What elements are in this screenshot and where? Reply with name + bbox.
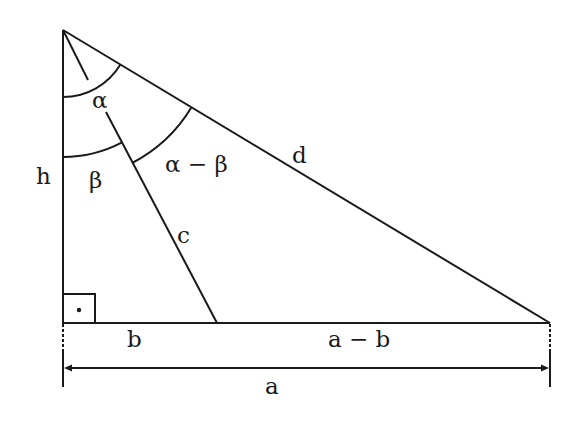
label-alpha-minus-beta: α − β <box>165 151 228 177</box>
label-beta: β <box>89 167 102 193</box>
arrowhead-right-icon <box>541 365 549 372</box>
label-a-minus-b: a − b <box>328 326 390 352</box>
right-angle-dot <box>77 308 81 312</box>
label-c: c <box>177 222 190 248</box>
label-b: b <box>127 326 142 352</box>
label-alpha: α <box>92 87 108 113</box>
label-a: a <box>265 373 279 399</box>
angle-arc-beta <box>63 143 122 157</box>
triangle-diagram: h α β α − β d c b a − b a <box>0 0 578 421</box>
side-d-hypotenuse <box>63 30 550 323</box>
label-h: h <box>36 163 51 189</box>
arrowhead-left-icon <box>64 365 72 372</box>
label-d: d <box>292 142 307 168</box>
